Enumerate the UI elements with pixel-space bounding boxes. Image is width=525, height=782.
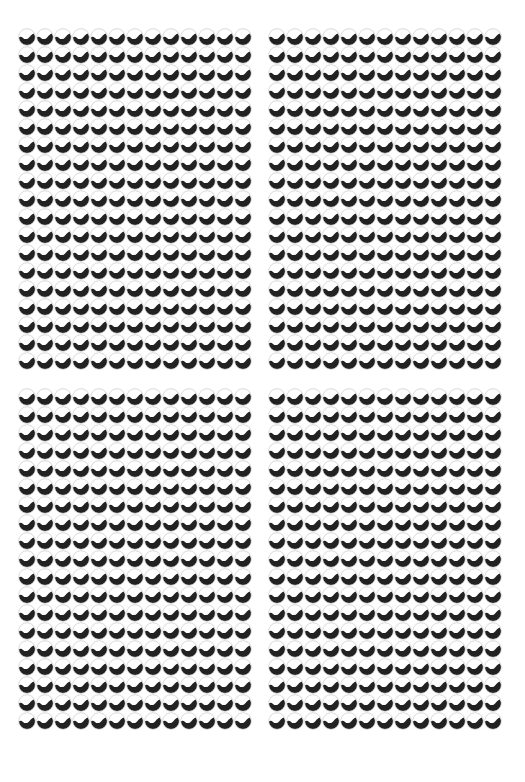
wave-split-circle-icon: [376, 640, 394, 658]
wave-split-circle-icon: [322, 136, 340, 154]
wave-split-circle-icon: [466, 712, 484, 730]
wave-split-circle-icon: [322, 514, 340, 532]
wave-split-circle-icon: [18, 604, 36, 622]
wave-split-circle-icon: [412, 298, 430, 316]
wave-split-circle-icon: [394, 64, 412, 82]
wave-split-circle-icon: [430, 172, 448, 190]
wave-split-circle-icon: [144, 280, 162, 298]
wave-split-circle-icon: [234, 550, 252, 568]
wave-split-circle-icon: [54, 622, 72, 640]
wave-split-circle-icon: [126, 64, 144, 82]
wave-split-circle-icon: [286, 712, 304, 730]
wave-split-circle-icon: [126, 478, 144, 496]
wave-split-circle-icon: [286, 154, 304, 172]
wave-split-circle-icon: [72, 604, 90, 622]
wave-split-circle-icon: [36, 136, 54, 154]
wave-split-circle-icon: [286, 586, 304, 604]
wave-split-circle-icon: [340, 208, 358, 226]
wave-split-circle-icon: [126, 586, 144, 604]
wave-split-circle-icon: [466, 28, 484, 46]
wave-split-circle-icon: [286, 136, 304, 154]
wave-split-circle-icon: [54, 406, 72, 424]
wave-split-circle-icon: [216, 640, 234, 658]
wave-split-circle-icon: [412, 316, 430, 334]
wave-split-circle-icon: [322, 676, 340, 694]
wave-split-circle-icon: [72, 352, 90, 370]
wave-split-circle-icon: [484, 280, 502, 298]
wave-split-circle-icon: [394, 334, 412, 352]
wave-split-circle-icon: [304, 676, 322, 694]
wave-split-circle-icon: [340, 460, 358, 478]
wave-split-circle-icon: [180, 532, 198, 550]
wave-split-circle-icon: [340, 154, 358, 172]
wave-split-circle-icon: [466, 550, 484, 568]
wave-split-circle-icon: [466, 352, 484, 370]
wave-split-circle-icon: [144, 262, 162, 280]
wave-split-circle-icon: [90, 550, 108, 568]
wave-split-circle-icon: [234, 658, 252, 676]
wave-split-circle-icon: [18, 190, 36, 208]
wave-split-circle-icon: [54, 172, 72, 190]
wave-split-circle-icon: [36, 406, 54, 424]
wave-split-circle-icon: [234, 280, 252, 298]
wave-split-circle-icon: [54, 262, 72, 280]
wave-split-circle-icon: [466, 568, 484, 586]
wave-split-circle-icon: [268, 226, 286, 244]
wave-split-circle-icon: [54, 532, 72, 550]
wave-split-circle-icon: [286, 262, 304, 280]
wave-split-circle-icon: [36, 262, 54, 280]
wave-split-circle-icon: [358, 550, 376, 568]
wave-split-circle-icon: [180, 622, 198, 640]
wave-split-circle-icon: [36, 64, 54, 82]
wave-split-circle-icon: [340, 568, 358, 586]
wave-split-circle-icon: [340, 226, 358, 244]
wave-split-circle-icon: [72, 226, 90, 244]
wave-split-circle-icon: [412, 334, 430, 352]
wave-split-circle-icon: [72, 406, 90, 424]
wave-split-circle-icon: [162, 280, 180, 298]
wave-split-circle-icon: [448, 28, 466, 46]
wave-split-circle-icon: [144, 208, 162, 226]
wave-split-circle-icon: [412, 82, 430, 100]
wave-split-circle-icon: [268, 478, 286, 496]
wave-split-circle-icon: [304, 46, 322, 64]
wave-split-circle-icon: [304, 424, 322, 442]
wave-split-circle-icon: [448, 352, 466, 370]
wave-split-circle-icon: [198, 676, 216, 694]
wave-split-circle-icon: [216, 478, 234, 496]
wave-split-circle-icon: [72, 118, 90, 136]
wave-split-circle-icon: [412, 190, 430, 208]
wave-split-circle-icon: [322, 712, 340, 730]
wave-split-circle-icon: [286, 190, 304, 208]
wave-split-circle-icon: [466, 46, 484, 64]
wave-split-circle-icon: [18, 298, 36, 316]
wave-split-circle-icon: [144, 46, 162, 64]
wave-split-circle-icon: [162, 586, 180, 604]
wave-split-circle-icon: [234, 352, 252, 370]
wave-split-circle-icon: [162, 496, 180, 514]
wave-split-circle-icon: [162, 316, 180, 334]
wave-split-circle-icon: [108, 460, 126, 478]
wave-split-circle-icon: [90, 136, 108, 154]
wave-split-circle-icon: [466, 82, 484, 100]
wave-split-circle-icon: [448, 496, 466, 514]
wave-split-circle-icon: [36, 190, 54, 208]
wave-split-circle-icon: [448, 154, 466, 172]
wave-split-circle-icon: [376, 280, 394, 298]
wave-split-circle-icon: [268, 388, 286, 406]
wave-split-circle-icon: [54, 118, 72, 136]
wave-split-circle-icon: [358, 496, 376, 514]
wave-split-circle-icon: [412, 496, 430, 514]
wave-split-circle-icon: [234, 136, 252, 154]
wave-split-circle-icon: [216, 28, 234, 46]
wave-split-circle-icon: [466, 460, 484, 478]
wave-split-circle-icon: [304, 694, 322, 712]
wave-split-circle-icon: [36, 658, 54, 676]
wave-split-circle-icon: [108, 388, 126, 406]
wave-split-circle-icon: [18, 442, 36, 460]
wave-split-circle-icon: [180, 640, 198, 658]
wave-split-circle-icon: [198, 496, 216, 514]
wave-split-circle-icon: [36, 244, 54, 262]
wave-split-circle-icon: [180, 514, 198, 532]
wave-split-circle-icon: [234, 100, 252, 118]
